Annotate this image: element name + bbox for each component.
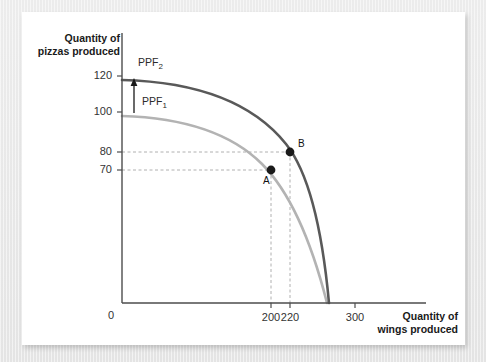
x-axis-title-line-1: Quantity of [374, 310, 458, 323]
ppf2-label-subscript: 2 [158, 62, 162, 71]
y-tick-label-80: 80 [82, 145, 112, 157]
y-tick-label-70: 70 [82, 163, 112, 175]
x-tick-label-220: 220 [273, 311, 307, 323]
ppf-plot-svg [22, 12, 465, 345]
origin-label: 0 [108, 309, 114, 321]
x-axis-title: Quantity of wings produced [374, 310, 458, 336]
ppf1-label-subscript: 1 [162, 101, 166, 110]
ppf1-label: PPF1 [142, 95, 167, 110]
y-tick-label-100: 100 [82, 105, 112, 117]
ppf1-curve [122, 116, 327, 303]
x-tick-label-300: 300 [338, 311, 372, 323]
ppf1-label-text: PPF [142, 95, 162, 107]
y-axis-title-line-2: pizzas produced [32, 45, 120, 58]
figure-panel: Quantity of pizzas produced Quantity of … [22, 12, 465, 345]
data-point-a [267, 166, 276, 175]
x-axis-title-line-2: wings produced [374, 323, 458, 336]
ppf2-curve [122, 80, 329, 303]
y-axis-title: Quantity of pizzas produced [32, 32, 120, 58]
y-axis-title-line-1: Quantity of [32, 32, 120, 45]
y-tick-label-120: 120 [82, 69, 112, 81]
ppf2-label: PPF2 [138, 56, 163, 71]
data-point-b [286, 148, 295, 157]
point-a-label: A [263, 175, 270, 186]
ppf2-label-text: PPF [138, 56, 158, 68]
ppf-chart: Quantity of pizzas produced Quantity of … [22, 12, 465, 345]
point-b-label: B [298, 138, 305, 149]
